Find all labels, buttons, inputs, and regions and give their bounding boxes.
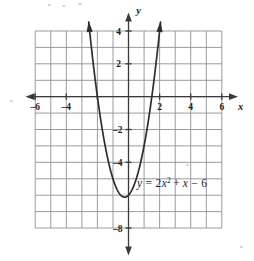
x-tick-label-6: 6 bbox=[219, 102, 224, 112]
parabola-curve bbox=[89, 22, 161, 197]
y-tick-label-neg8: –8 bbox=[112, 224, 123, 234]
y-axis-up-arrow bbox=[125, 13, 132, 22]
equation-term1-exponent: 2 bbox=[167, 176, 171, 185]
y-axis bbox=[125, 13, 132, 256]
svg-text:y=2x2+x−6: y=2x2+x−6 bbox=[136, 176, 207, 191]
x-tick-label-2: 2 bbox=[157, 102, 162, 112]
y-axis-down-arrow bbox=[125, 247, 132, 256]
x-tick-label-4: 4 bbox=[188, 102, 193, 112]
y-tick-label-4: 4 bbox=[116, 27, 121, 37]
equation-label: y=2x2+x−6 bbox=[136, 176, 207, 191]
x-axis-right-arrow bbox=[229, 93, 238, 100]
x-tick-label-neg6: –6 bbox=[29, 102, 40, 112]
equation-constant: 6 bbox=[201, 177, 207, 189]
equation-term1-coeff: 2 bbox=[156, 177, 162, 189]
y-axis-name: y bbox=[134, 5, 141, 16]
coordinate-plane-svg: –6 –4 2 4 6 4 2 –2 –4 –8 x y y=2x2+x−6 bbox=[0, 0, 254, 261]
x-axis-left-arrow bbox=[26, 93, 35, 100]
y-tick-label-2: 2 bbox=[116, 59, 121, 69]
x-axis-name: x bbox=[237, 101, 243, 112]
x-tick-label-neg4: –4 bbox=[61, 102, 72, 112]
equation-lhs: y bbox=[136, 177, 143, 190]
equation-plus: + bbox=[173, 177, 180, 189]
curve-left-arrow bbox=[87, 21, 93, 32]
equation-equals: = bbox=[146, 177, 153, 189]
curve-right-arrow bbox=[156, 21, 162, 32]
equation-minus: − bbox=[191, 177, 198, 189]
equation-term2-var: x bbox=[182, 177, 189, 189]
graph-figure: –6 –4 2 4 6 4 2 –2 –4 –8 x y y=2x2+x−6 bbox=[0, 0, 254, 261]
y-tick-label-neg2: –2 bbox=[112, 125, 123, 135]
y-tick-label-neg4: –4 bbox=[112, 158, 123, 168]
